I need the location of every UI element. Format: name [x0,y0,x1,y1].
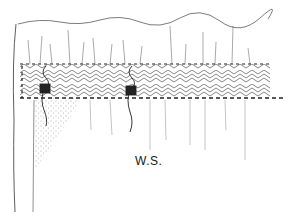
illustration [0,0,295,222]
left-boundary-line [13,24,16,212]
hairs-above [28,26,250,64]
stippled-region [34,98,80,172]
ws-label: W.S. [135,154,162,168]
top-surface-line [18,9,273,28]
left-inner-line [33,100,34,212]
herringbone-band [20,64,270,98]
hairs-below [90,100,245,160]
